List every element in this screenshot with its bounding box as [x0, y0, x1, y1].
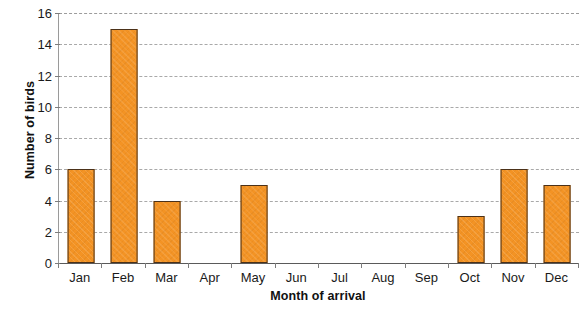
- bar-slot: [102, 13, 145, 263]
- x-axis-tick-mark: [405, 263, 406, 268]
- x-axis-tick-mark: [448, 263, 449, 268]
- bar-oct[interactable]: [457, 216, 484, 263]
- y-axis-tick-label: 12: [20, 69, 52, 82]
- bar-chart-figure: Number of birds 0246810121416 JanFebMarA…: [0, 0, 588, 311]
- y-axis-tick-label: 6: [20, 163, 52, 176]
- x-axis-tick-mark: [578, 263, 579, 268]
- x-axis-tick-mark: [188, 263, 189, 268]
- bar-slot: [406, 13, 449, 263]
- bar-jan[interactable]: [67, 169, 94, 263]
- bar-nov[interactable]: [501, 169, 528, 263]
- bar-slot: [276, 13, 319, 263]
- bar-slot: [59, 13, 102, 263]
- bar-may[interactable]: [241, 185, 268, 263]
- plot-area: [58, 13, 579, 264]
- bar-slot: [492, 13, 535, 263]
- y-axis-tick-label: 10: [20, 100, 52, 113]
- x-axis-tick-label-aug: Aug: [371, 269, 394, 287]
- y-axis-tick-label: 16: [20, 7, 52, 20]
- x-axis-tick-mark: [318, 263, 319, 268]
- bar-slot: [146, 13, 189, 263]
- x-axis-tick-label-may: May: [241, 269, 266, 287]
- bar-feb[interactable]: [111, 29, 138, 263]
- y-axis-tick-label: 0: [20, 257, 52, 270]
- x-axis-tick-label-sep: Sep: [415, 269, 438, 287]
- bar-mar[interactable]: [154, 201, 181, 264]
- x-axis-tick-mark: [491, 263, 492, 268]
- x-axis-tick-label-apr: Apr: [200, 269, 220, 287]
- x-axis-tick-mark: [275, 263, 276, 268]
- y-axis-tick-label: 14: [20, 38, 52, 51]
- y-axis-tick-label: 4: [20, 194, 52, 207]
- bar-slot: [319, 13, 362, 263]
- x-axis-tick-label-jun: Jun: [286, 269, 307, 287]
- bar-slot: [536, 13, 579, 263]
- x-axis-tick-mark: [231, 263, 232, 268]
- bar-slot: [232, 13, 275, 263]
- x-axis-tick-mark: [101, 263, 102, 268]
- y-axis-tick-label: 8: [20, 132, 52, 145]
- bar-dec[interactable]: [544, 185, 571, 263]
- bar-slot: [362, 13, 405, 263]
- x-axis-tick-label-oct: Oct: [460, 269, 480, 287]
- x-axis-tick-labels: JanFebMarAprMayJunJulAugSepOctNovDec: [58, 269, 578, 289]
- bar-slot: [449, 13, 492, 263]
- x-axis-tick-mark: [58, 263, 59, 268]
- x-axis-tick-label-jul: Jul: [331, 269, 348, 287]
- bar-slot: [189, 13, 232, 263]
- x-axis-tick-label-dec: Dec: [545, 269, 568, 287]
- x-axis-tick-mark: [145, 263, 146, 268]
- bars-layer: [59, 13, 579, 263]
- x-axis-tick-mark: [361, 263, 362, 268]
- y-axis-tick-labels: 0246810121416: [20, 13, 52, 263]
- x-axis-tick-label-feb: Feb: [112, 269, 134, 287]
- x-axis-tick-label-mar: Mar: [155, 269, 177, 287]
- x-axis-tick-label-nov: Nov: [501, 269, 524, 287]
- x-axis-tick-label-jan: Jan: [69, 269, 90, 287]
- x-axis-title: Month of arrival: [58, 289, 578, 303]
- x-axis-tick-mark: [535, 263, 536, 268]
- y-axis-tick-label: 2: [20, 225, 52, 238]
